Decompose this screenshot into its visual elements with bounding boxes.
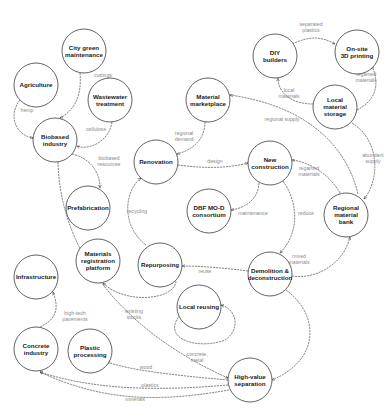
edge-label: cuttings: [94, 72, 112, 78]
node-prefabrication: Prefabrication: [66, 186, 110, 230]
node-materials-registration-platform: Materialsregistrationplatform: [76, 239, 120, 283]
edge-recycling: recycling: [127, 178, 148, 245]
material-flow-diagram: cuttingshempcellulosebiobasedresourcesre…: [0, 0, 392, 417]
node-label: Prefabrication: [67, 204, 109, 211]
edge-label: biobasedresources: [98, 155, 121, 167]
edge-regional-demand: regionaldemand: [175, 122, 205, 154]
edge-mixed-materials: mixedmaterials: [288, 237, 350, 277]
edge-label: regionaldemand: [175, 130, 194, 142]
node-label: Repurposing: [141, 261, 179, 268]
edge-biobased-resources: biobasedresources: [72, 154, 121, 188]
arrow-connector: [182, 266, 248, 271]
edge-demolition-to-separation: [272, 290, 310, 380]
node-label: Infrastructure: [16, 273, 57, 280]
arrow-connector: [272, 290, 310, 380]
node-city-green-maintenance: City greenmaintenance: [62, 29, 106, 73]
edge-label: design: [207, 158, 222, 164]
node-repurposing: Repurposing: [138, 243, 182, 287]
node-label: Renovation: [139, 158, 173, 165]
edge-label: abundantsupply: [362, 152, 384, 164]
node-new-construction: Newconstruction: [248, 141, 292, 185]
arrow-connector: [280, 181, 295, 253]
node-local-material-storage: Localmaterialstorage: [313, 85, 357, 129]
edge-label: regional supply: [265, 116, 300, 122]
node-label: Local reusing: [179, 303, 219, 310]
edge-label: localmaterials: [278, 87, 299, 99]
nodes-layer: City greenmaintenanceAgricultureWastewat…: [14, 29, 379, 402]
node-agriculture: Agriculture: [14, 63, 58, 107]
edge-abundant-supply: abundantsupply: [352, 123, 384, 199]
node-biobased-industry: Biobasedindustry: [33, 118, 77, 162]
arrow-connector: [107, 362, 228, 380]
edge-label: wood: [140, 364, 153, 370]
node-high-value-separation: High-valueseparation: [228, 358, 272, 402]
node-infrastructure: Infrastructure: [14, 255, 58, 299]
arrow-connector: [40, 372, 229, 398]
edge-label: plastics: [141, 382, 159, 388]
node-material-marketplace: Materialmarketplace: [186, 78, 230, 122]
node-regional-material-bank: Regionalmaterialbank: [324, 193, 368, 237]
edge-reduce: reduce: [280, 181, 314, 253]
edge-plastics: plastics: [40, 372, 228, 388]
node-demolition-deconstruction: Demolition &deconstruction: [248, 252, 293, 296]
node-diy-builders: DIYbuilders: [253, 34, 297, 78]
node-label: Agriculture: [19, 81, 53, 88]
node-label: Materialsregistrationplatform: [81, 250, 115, 271]
edge-label: reduce: [298, 210, 314, 216]
node-wastewater-treatment: Wastewatertreatment: [88, 78, 132, 122]
node-label: City greenmaintenance: [65, 44, 103, 58]
edge-local-materials: localmaterials: [278, 78, 313, 104]
arrow-connector: [40, 372, 228, 388]
edge-label: recycling: [127, 208, 148, 214]
edge-maintenance: maintenance: [231, 183, 268, 216]
edge-label: regainedmaterials: [298, 165, 319, 177]
edge-label: mixedmaterials: [288, 253, 309, 265]
node-renovation: Renovation: [134, 140, 178, 184]
node-label: Biobasedindustry: [41, 133, 69, 147]
node-concrete-industry: Concreteindustry: [14, 327, 58, 371]
edge-label: maintenance: [238, 210, 268, 216]
edge-wood: wood: [107, 362, 228, 380]
edge-label: high-techpavements: [62, 310, 88, 322]
edge-high-tech-pavements: high-techpavements: [40, 292, 88, 327]
arrow-connector: [60, 73, 80, 118]
edge-label: reuse: [199, 268, 212, 274]
edge-regained-materials-nc: regainedmaterials: [292, 160, 340, 193]
edge-existing-stocks: existingstocks: [103, 281, 176, 320]
edge-separated-plastics: separatedplastics: [292, 21, 335, 44]
edge-reuse: reuse: [182, 266, 248, 274]
node-on-site-3d-printing: On-site3D printing: [335, 30, 379, 74]
edge-label: minerals: [125, 396, 145, 402]
edge-label: cellulose: [86, 126, 106, 132]
edge-label: separatedplastics: [299, 21, 322, 33]
node-dbf-mo-d-consortium: DBF MO-Dconsortium: [187, 189, 231, 233]
arrow-connector: [72, 154, 100, 188]
edge-cellulose: cellulose: [77, 122, 112, 147]
node-label: Wastewatertreatment: [93, 93, 128, 107]
arrow-connector: [231, 183, 259, 210]
node-label: Concreteindustry: [23, 342, 50, 356]
node-label: Demolition &deconstruction: [248, 267, 293, 281]
node-label: High-valueseparation: [234, 373, 266, 387]
edge-label: hemp: [21, 107, 34, 113]
node-plastic-processing: Plasticprocessing: [68, 329, 112, 373]
node-local-reusing: Local reusing: [177, 285, 221, 329]
arrow-connector: [292, 38, 335, 44]
node-label: DBF MO-Dconsortium: [192, 204, 226, 218]
edge-design: design: [178, 158, 248, 167]
edge-label: concrete,metal: [186, 351, 207, 363]
